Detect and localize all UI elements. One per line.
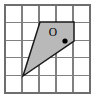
point-label-o: O <box>49 26 57 38</box>
geometry-figure: O <box>0 0 100 102</box>
figure-container: O <box>0 0 100 102</box>
point-marker-dot <box>62 38 67 43</box>
